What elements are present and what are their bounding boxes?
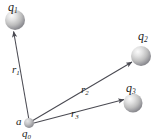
vector-label-r1: r1	[12, 64, 20, 76]
vector-label-r1-sub: 1	[16, 69, 19, 76]
charge-label-q2-sub: 2	[144, 35, 148, 44]
point-label-a: a	[16, 116, 22, 127]
charge-label-q0: q0	[22, 128, 31, 140]
charge-label-q1-sub: 1	[14, 6, 18, 15]
charge-sphere-q3	[124, 94, 143, 113]
vector-label-r2-sub: 2	[85, 89, 88, 96]
charge-label-q3: q3	[126, 82, 136, 95]
charge-label-q0-sub: 0	[28, 133, 31, 140]
vector-label-r3: r3	[71, 108, 79, 120]
charge-label-q3-sub: 3	[132, 87, 136, 96]
vector-label-r2: r2	[81, 84, 89, 96]
vector-label-r3-sub: 3	[75, 113, 78, 120]
charge-vector-diagram: q1 q2 q3 q0 a r1 r2 r3	[0, 0, 155, 140]
charge-label-q1: q1	[8, 1, 18, 14]
charge-label-q2: q2	[138, 30, 148, 43]
charge-sphere-q2	[131, 46, 151, 66]
